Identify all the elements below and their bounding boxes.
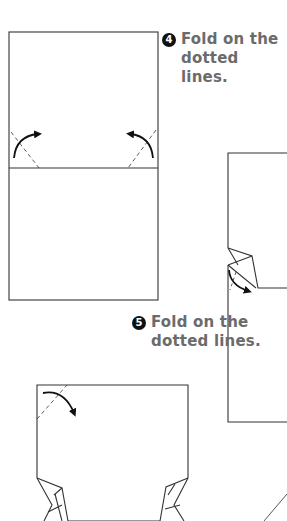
fold-arrow-corner-icon [43,392,74,413]
step-number-badge: 5 [132,316,146,330]
step-text-line2: dotted lines. [132,332,261,351]
step-5-instruction: 5Fold on the dotted lines. [132,313,261,351]
fold-arrow-right-icon [130,134,153,158]
step-text-line1: Fold on the [151,313,248,331]
next-diagram-edge [264,494,287,521]
step-text-line2: dotted lines. [162,49,287,87]
step5-result-paper [37,385,188,521]
step-text-line1: Fold on the [181,30,278,48]
step5-paper [228,153,287,422]
step-number-badge: 4 [162,33,176,47]
fold-arrow-left-icon [14,134,38,158]
step-4-instruction: 4Fold on the dotted lines. [162,30,287,87]
step4-paper [9,32,158,300]
